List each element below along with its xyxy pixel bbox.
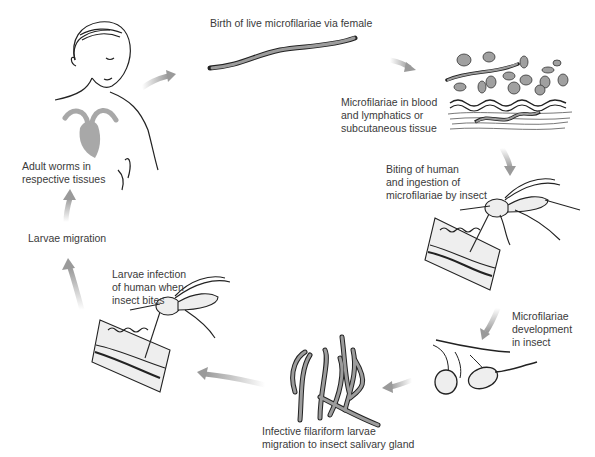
arrow-biting-to-development xyxy=(480,308,498,340)
label-line: respective tissues xyxy=(22,173,105,186)
label-line: in insect xyxy=(512,336,572,349)
arrow-migration-to-adult xyxy=(63,189,76,222)
label-line: Larvae migration xyxy=(28,232,106,245)
label-line: and lymphatics or xyxy=(341,109,437,122)
label-line: of human when xyxy=(112,281,186,294)
arrow-blood-to-biting xyxy=(502,148,516,176)
filariform-larvae-illustration xyxy=(293,337,378,425)
arrow-infective-to-infection xyxy=(197,367,265,385)
arrow-development-to-infective xyxy=(382,380,412,393)
label-line: development xyxy=(512,323,572,336)
label-line: Biting of human xyxy=(386,163,487,176)
label-line: Microfilariae xyxy=(512,310,572,323)
arrow-adult-to-birth xyxy=(142,70,176,88)
heart-icon xyxy=(65,110,116,158)
label-blood: Microfilariae in blood and lymphatics or… xyxy=(341,96,437,135)
label-line: insect bites xyxy=(112,294,186,307)
life-cycle-diagram xyxy=(0,0,595,457)
label-adult-worms: Adult worms in respective tissues xyxy=(22,160,105,186)
label-line: Adult worms in xyxy=(22,160,105,173)
label-line: subcutaneous tissue xyxy=(341,122,437,135)
label-infection: Larvae infection of human when insect bi… xyxy=(112,268,186,307)
label-migration: Larvae migration xyxy=(28,232,106,245)
label-line: microfilariae by insect xyxy=(386,189,487,202)
microfilaria-worm-illustration xyxy=(210,38,355,68)
label-line: Microfilariae in blood xyxy=(341,96,437,109)
arrow-birth-to-blood xyxy=(390,60,416,72)
label-line: Infective filariform larvae xyxy=(262,425,414,438)
arrow-infection-to-migration xyxy=(62,258,82,310)
label-birth: Birth of live microfilariae via female xyxy=(210,17,372,30)
label-biting: Biting of human and ingestion of microfi… xyxy=(386,163,487,202)
label-development: Microfilariae development in insect xyxy=(512,310,572,349)
label-line: Birth of live microfilariae via female xyxy=(210,17,372,30)
label-line: and ingestion of xyxy=(386,176,487,189)
label-infective: Infective filariform larvae migration to… xyxy=(262,425,414,451)
clipped-figure-caption xyxy=(175,450,435,457)
label-line: Larvae infection xyxy=(112,268,186,281)
blood-tissue-illustration xyxy=(447,52,572,129)
